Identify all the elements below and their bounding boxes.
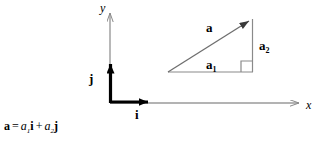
vector-a-label: a xyxy=(206,21,213,34)
vector-component-equation: a=a1i+a2j xyxy=(4,120,58,132)
x-axis-label: x xyxy=(306,99,311,111)
equation-term1-coefficient: a xyxy=(21,119,27,133)
component-a1-base: a xyxy=(206,57,213,72)
equation-term2-unit: j xyxy=(54,119,58,133)
i-unit-vector-label: i xyxy=(135,108,139,121)
y-axis-label: y xyxy=(100,2,105,14)
component-a2-label: a2 xyxy=(259,39,270,52)
equation-term1-subscript: 1 xyxy=(27,127,31,135)
equation-equals: = xyxy=(10,119,21,133)
vector-component-diagram: y x j i a a1 a2 a=a1i+a2j xyxy=(0,0,323,142)
equation-plus: + xyxy=(34,119,45,133)
component-a1-subscript: 1 xyxy=(213,65,217,74)
component-a2-base: a xyxy=(259,38,266,53)
component-a1-label: a1 xyxy=(206,58,217,71)
equation-term2-subscript: 2 xyxy=(50,127,54,135)
j-unit-vector-label: j xyxy=(89,72,93,85)
right-angle-marker xyxy=(241,61,252,72)
component-a2-subscript: 2 xyxy=(266,46,270,55)
